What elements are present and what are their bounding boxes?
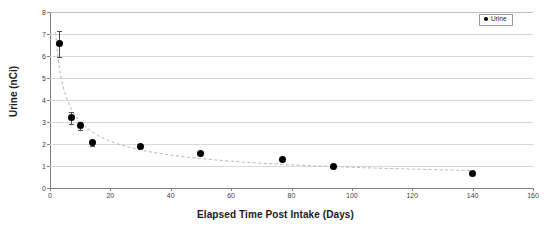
x-tick-mark-20 bbox=[110, 188, 111, 191]
legend-label-urine: Urine bbox=[491, 16, 507, 23]
y-axis-title: Urine (nCi) bbox=[8, 32, 19, 152]
error-bar-cap-lower bbox=[69, 124, 74, 125]
plot-area bbox=[50, 12, 533, 188]
x-tick-label-140: 140 bbox=[467, 192, 479, 199]
x-tick-mark-160 bbox=[533, 188, 534, 191]
trendline bbox=[50, 12, 533, 188]
data-point[interactable] bbox=[56, 40, 63, 47]
error-bar-cap-upper bbox=[57, 31, 62, 32]
x-tick-mark-0 bbox=[50, 188, 51, 191]
x-tick-label-80: 80 bbox=[288, 192, 296, 199]
y-tick-label-0: 0 bbox=[0, 185, 46, 192]
x-tick-label-40: 40 bbox=[167, 192, 175, 199]
legend-marker-icon bbox=[484, 17, 488, 21]
data-point[interactable] bbox=[279, 156, 286, 163]
error-bar-cap-lower bbox=[57, 57, 62, 58]
data-point[interactable] bbox=[68, 114, 75, 121]
error-bar-cap-lower bbox=[78, 130, 83, 131]
y-tick-label-1: 1 bbox=[0, 163, 46, 170]
x-axis-title: Elapsed Time Post Intake (Days) bbox=[0, 209, 551, 220]
x-tick-label-60: 60 bbox=[227, 192, 235, 199]
x-tick-label-20: 20 bbox=[106, 192, 114, 199]
x-tick-mark-80 bbox=[292, 188, 293, 191]
chart-legend[interactable]: Urine bbox=[479, 14, 513, 26]
x-tick-mark-60 bbox=[231, 188, 232, 191]
x-tick-mark-100 bbox=[352, 188, 353, 191]
y-tick-label-8: 8 bbox=[0, 9, 46, 16]
x-tick-label-100: 100 bbox=[346, 192, 358, 199]
trendline-path bbox=[56, 32, 473, 170]
x-tick-mark-140 bbox=[473, 188, 474, 191]
error-bar-cap-upper bbox=[69, 112, 74, 113]
x-tick-label-160: 160 bbox=[527, 192, 539, 199]
x-tick-label-0: 0 bbox=[48, 192, 52, 199]
x-tick-label-120: 120 bbox=[406, 192, 418, 199]
data-point[interactable] bbox=[137, 143, 144, 150]
x-tick-mark-40 bbox=[171, 188, 172, 191]
chart-figure: 012345678 020406080100120140160 Elapsed … bbox=[0, 0, 551, 234]
x-tick-mark-120 bbox=[412, 188, 413, 191]
